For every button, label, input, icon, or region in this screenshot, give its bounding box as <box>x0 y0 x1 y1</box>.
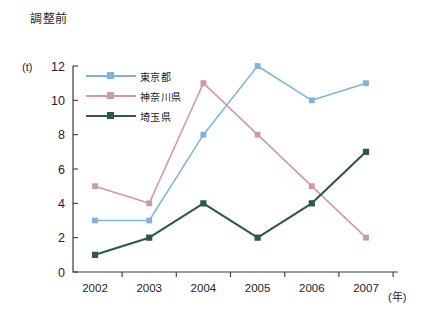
x-tick-label: 2002 <box>82 282 108 294</box>
legend-label: 埼玉県 <box>140 109 171 124</box>
y-tick-label: 6 <box>58 163 65 177</box>
y-tick-label: 0 <box>58 266 65 280</box>
plot-area: 024681012 200220032004200520062007 <box>0 0 438 318</box>
line-chart: 調整前 (t) (年) 024681012 200220032004200520… <box>0 0 438 318</box>
y-tick-label: 2 <box>58 231 65 245</box>
legend-item[interactable]: 東京都 <box>86 66 204 86</box>
data-point-marker <box>309 183 315 189</box>
legend: 東京都神奈川県埼玉県 <box>86 66 204 128</box>
legend-label: 東京都 <box>140 69 171 84</box>
data-point-marker <box>146 200 152 206</box>
data-point-marker <box>146 235 152 241</box>
legend-swatch-icon <box>86 70 136 82</box>
data-point-marker <box>255 63 261 69</box>
data-point-marker <box>363 235 369 241</box>
legend-item[interactable]: 神奈川県 <box>86 86 204 106</box>
data-point-marker <box>309 200 315 206</box>
x-axis-ticks <box>122 272 393 277</box>
y-tick-label: 4 <box>58 197 65 211</box>
x-tick-label: 2004 <box>191 282 217 294</box>
legend-swatch-icon <box>86 110 136 122</box>
y-tick-label: 10 <box>51 94 65 108</box>
x-tick-label: 2003 <box>136 282 162 294</box>
legend-swatch-icon <box>86 90 136 102</box>
y-axis-ticks: 024681012 <box>51 60 78 280</box>
data-point-marker <box>255 235 261 241</box>
data-point-marker <box>363 149 369 155</box>
y-tick-label: 12 <box>51 60 65 74</box>
legend-label: 神奈川県 <box>140 89 181 104</box>
legend-marker-icon <box>107 72 114 79</box>
data-point-marker <box>363 80 369 86</box>
legend-item[interactable]: 埼玉県 <box>86 106 204 126</box>
legend-marker-icon <box>107 112 114 119</box>
data-point-marker <box>92 183 98 189</box>
data-point-marker <box>200 200 206 206</box>
x-axis-labels: 200220032004200520062007 <box>82 282 379 294</box>
y-tick-label: 8 <box>58 128 65 142</box>
legend-marker-icon <box>107 92 114 99</box>
data-point-marker <box>92 252 98 258</box>
x-tick-label: 2007 <box>353 282 379 294</box>
data-point-marker <box>309 97 315 103</box>
x-tick-label: 2006 <box>299 282 325 294</box>
data-point-marker <box>146 218 152 224</box>
data-point-marker <box>201 132 207 138</box>
data-point-marker <box>92 218 98 224</box>
series-line <box>95 152 366 255</box>
x-tick-label: 2005 <box>245 282 271 294</box>
data-point-marker <box>255 132 261 138</box>
